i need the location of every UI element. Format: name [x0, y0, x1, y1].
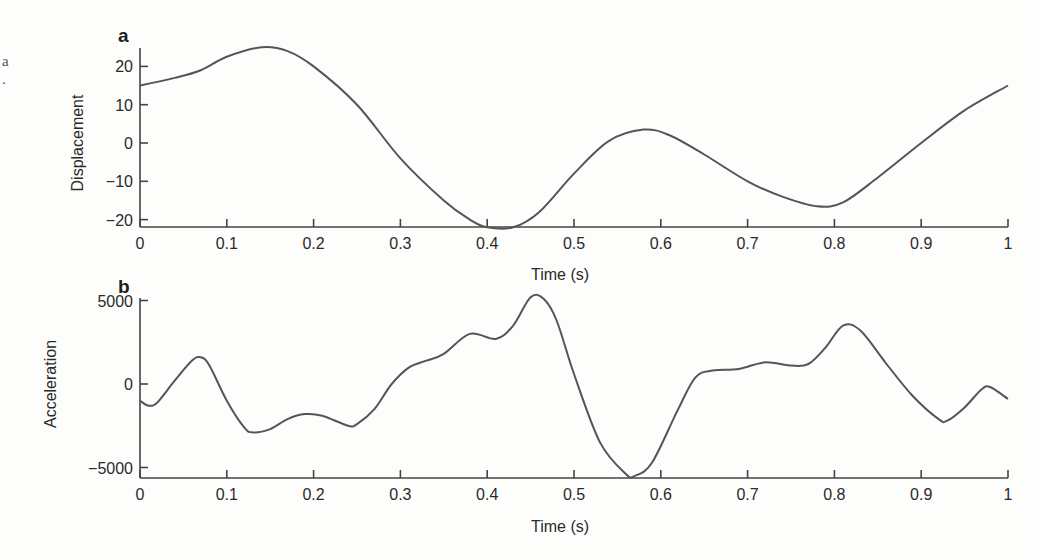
x-tick-label: 0.9 — [910, 235, 932, 252]
panel-letter-a: a — [118, 25, 129, 46]
x-tick-label: 0.8 — [823, 486, 845, 503]
x-tick-label: 0.1 — [216, 486, 238, 503]
x-axis-title-a: Time (s) — [531, 266, 589, 283]
y-tick-label: −10 — [106, 173, 133, 190]
x-axis-title-b: Time (s) — [531, 518, 589, 535]
y-ticks-b: 50000−5000 — [88, 293, 148, 477]
x-tick-label: 1 — [1004, 486, 1013, 503]
x-tick-label: 0.8 — [823, 235, 845, 252]
x-tick-label: 0.7 — [736, 486, 758, 503]
y-axis-title-a: Displacement — [69, 94, 86, 191]
x-ticks-b: 00.10.20.30.40.50.60.70.80.91 — [136, 470, 1013, 503]
panel-a: a Displacement 20100−10−20 00.10.20.30.4… — [69, 25, 1013, 283]
displacement-line — [140, 47, 1008, 229]
edge-text-dot: . — [2, 71, 6, 87]
y-tick-label: 10 — [115, 97, 133, 114]
y-tick-label: 20 — [115, 58, 133, 75]
panel-b: b Acceleration 50000−5000 00.10.20.30.40… — [42, 276, 1013, 535]
acceleration-line — [140, 295, 1008, 478]
x-tick-label: 0.7 — [736, 235, 758, 252]
x-tick-label: 0.5 — [563, 486, 585, 503]
x-tick-label: 0.4 — [476, 235, 498, 252]
x-tick-label: 0.9 — [910, 486, 932, 503]
y-tick-label: −5000 — [88, 460, 133, 477]
y-tick-label: 0 — [124, 135, 133, 152]
y-axis-title-b: Acceleration — [42, 340, 59, 428]
x-tick-label: 0.3 — [389, 486, 411, 503]
x-tick-label: 1 — [1004, 235, 1013, 252]
x-tick-label: 0.6 — [650, 235, 672, 252]
x-tick-label: 0 — [136, 486, 145, 503]
y-ticks-a: 20100−10−20 — [106, 58, 148, 228]
y-tick-label: 0 — [124, 376, 133, 393]
y-tick-label: 5000 — [97, 293, 133, 310]
x-tick-label: 0.6 — [650, 486, 672, 503]
figure: a . a Displacement 20100−10−20 00.10.20.… — [0, 0, 1038, 560]
edge-text-fragment: a — [2, 53, 9, 69]
x-tick-label: 0.2 — [302, 486, 324, 503]
y-tick-label: −20 — [106, 212, 133, 229]
x-tick-label: 0.3 — [389, 235, 411, 252]
x-tick-label: 0 — [136, 235, 145, 252]
x-tick-label: 0.5 — [563, 235, 585, 252]
x-tick-label: 0.4 — [476, 486, 498, 503]
x-tick-label: 0.1 — [216, 235, 238, 252]
x-tick-label: 0.2 — [302, 235, 324, 252]
x-ticks-a: 00.10.20.30.40.50.60.70.80.91 — [136, 219, 1013, 252]
